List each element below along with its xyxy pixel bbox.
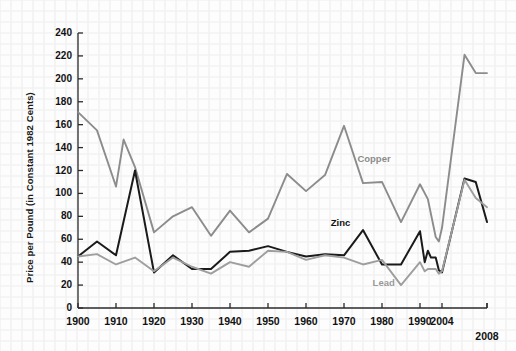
y-tick-label: 180: [30, 96, 72, 107]
y-tick-label: 240: [30, 27, 72, 38]
x-tick-label: 2004: [420, 315, 464, 327]
y-tick-label: 0: [30, 302, 72, 313]
y-tick-label: 200: [30, 73, 72, 84]
x-tick-label: 2008: [465, 330, 509, 342]
y-tick-label: 40: [30, 256, 72, 267]
series-label-copper: Copper: [357, 153, 390, 164]
y-tick-label: 20: [30, 279, 72, 290]
y-tick-label: 100: [30, 187, 72, 198]
y-tick-label: 120: [30, 165, 72, 176]
line-chart-canvas: [0, 0, 516, 351]
chart-figure: Price per Pound (in Constant 1982 Cents)…: [0, 0, 516, 351]
y-tick-label: 140: [30, 142, 72, 153]
axis-lines: [78, 33, 487, 308]
y-tick-label: 60: [30, 233, 72, 244]
data-series-group: [78, 55, 487, 285]
y-tick-label: 80: [30, 210, 72, 221]
series-label-lead: Lead: [373, 277, 395, 288]
y-tick-label: 220: [30, 50, 72, 61]
y-tick-label: 160: [30, 119, 72, 130]
series-label-zinc: Zinc: [331, 217, 351, 228]
